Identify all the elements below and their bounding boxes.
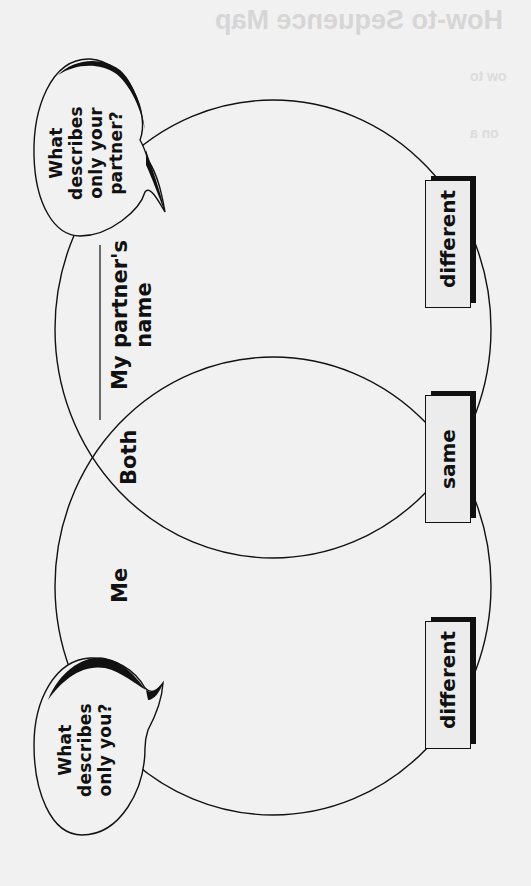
- me-circle-label: Me: [108, 568, 132, 603]
- me-different-box: different: [425, 621, 471, 749]
- partner-different-box: different: [425, 180, 471, 308]
- partner-bubble-question: What describes only your partner?: [46, 78, 126, 228]
- me-bubble-question: What describes only you?: [55, 680, 115, 820]
- me-different-label: different: [436, 641, 460, 729]
- partner-different-label: different: [436, 200, 460, 288]
- overlap-same-label: same: [436, 429, 460, 489]
- partner-circle-label: My partner's name: [108, 230, 156, 400]
- overlap-label: Both: [117, 430, 141, 485]
- overlap-same-box: same: [425, 395, 471, 523]
- venn-diagram-page: How-to Sequence Map ow to on a What desc…: [0, 0, 531, 886]
